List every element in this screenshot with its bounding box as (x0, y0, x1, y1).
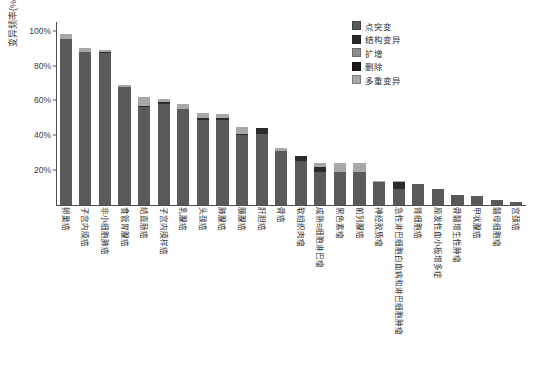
bar-column[interactable] (256, 128, 268, 205)
bar-column[interactable] (373, 181, 385, 205)
legend-item[interactable]: 点突变 (352, 20, 401, 31)
bar-column[interactable] (118, 85, 130, 205)
legend-label: 多重变异 (365, 74, 401, 86)
x-axis-tick-label: 神经胶质瘤 (375, 207, 383, 247)
x-axis-tick-label: 肝胆癌 (257, 207, 265, 231)
x-axis-tick-label: 成熟B细胞淋巴瘤 (316, 207, 324, 268)
x-axis-tick-label: 子宫内膜样癌 (159, 207, 167, 255)
x-axis-tick-label: 宫颈癌 (512, 207, 520, 231)
legend-swatch-icon (352, 35, 361, 44)
legend-item[interactable]: 扩增 (352, 47, 401, 58)
bar-segment (353, 163, 365, 172)
bar-segment (236, 135, 248, 205)
chart-legend: 点突变结构变异扩增删除多重变异 (352, 20, 401, 85)
x-axis-tick-label: 软组织肉瘤 (296, 207, 304, 247)
bar-column[interactable] (79, 48, 91, 205)
legend-label: 点突变 (365, 20, 392, 32)
legend-label: 结构变异 (365, 33, 401, 45)
legend-label: 删除 (365, 60, 383, 72)
x-axis-tick-label: 原发性血小板增多症 (433, 207, 441, 279)
bar-column[interactable] (491, 200, 503, 205)
bar-column[interactable] (510, 202, 522, 205)
legend-item[interactable]: 结构变异 (352, 34, 401, 45)
legend-swatch-icon (352, 48, 361, 57)
x-axis-tick-label: 肾细胞癌 (414, 207, 422, 239)
legend-swatch-icon (352, 75, 361, 84)
bar-segment (432, 189, 444, 205)
bar-segment (79, 52, 91, 205)
bar-segment (118, 87, 130, 206)
x-axis-tick-label: 结直肠癌 (140, 207, 148, 239)
x-axis-tick-label: 急性淋巴细胞白血病和淋巴细胞肿瘤 (394, 207, 402, 335)
bar-column[interactable] (216, 114, 228, 205)
bar-column[interactable] (177, 104, 189, 205)
bar-segment (60, 39, 72, 205)
bar-column[interactable] (295, 156, 307, 205)
bar-column[interactable] (236, 127, 248, 205)
y-axis-title: 变异频率(%) (6, 0, 19, 82)
x-axis-tick-label: 子宫内膜癌 (81, 207, 89, 247)
legend-item[interactable]: 删除 (352, 61, 401, 72)
bar-segment (510, 202, 522, 205)
x-axis-labels: 卵巢癌子宫内膜癌非小细胞肺癌食管胃腺癌结直肠癌子宫内膜样癌乳腺癌头颈癌肺腺癌胰腺… (56, 207, 526, 347)
bar-segment (373, 182, 385, 205)
x-axis-tick-label: 卵巢癌 (61, 207, 69, 231)
bar-segment (197, 120, 209, 205)
bar-segment (393, 189, 405, 205)
bar-segment (334, 163, 346, 172)
bar-segment (295, 161, 307, 205)
x-axis-tick-label: 非小细胞肺癌 (100, 207, 108, 255)
bar-column[interactable] (334, 163, 346, 205)
x-axis-tick-label: 黑色素瘤 (335, 207, 343, 239)
bar-segment (275, 151, 287, 205)
bar-column[interactable] (275, 148, 287, 206)
bar-column[interactable] (393, 181, 405, 205)
x-axis-tick-label: 胰腺癌 (237, 207, 245, 231)
bar-segment (256, 134, 268, 205)
plot-area: 20%40%60%80%100% (56, 22, 526, 205)
bar-segment (393, 182, 405, 189)
bar-segment (353, 172, 365, 205)
chart-figure: 变异频率(%) 20%40%60%80%100% 卵巢癌子宫内膜癌非小细胞肺癌食… (0, 0, 550, 375)
bar-segment (216, 120, 228, 205)
bar-segment (314, 172, 326, 205)
x-axis-tick-label: 乳腺癌 (179, 207, 187, 231)
bar-segment (177, 109, 189, 205)
x-axis-tick-label: 食管胃腺癌 (120, 207, 128, 247)
legend-label: 扩增 (365, 47, 383, 59)
bar-segment (334, 172, 346, 205)
bar-segment (138, 107, 150, 205)
bar-segment (99, 53, 111, 205)
bar-segment (491, 200, 503, 205)
legend-item[interactable]: 多重变异 (352, 74, 401, 85)
y-axis-tick-label: 100% (29, 26, 56, 36)
x-axis-tick-label: 肺腺癌 (218, 207, 226, 231)
legend-swatch-icon (352, 21, 361, 30)
bar-column[interactable] (353, 163, 365, 205)
bar-segment (158, 104, 170, 205)
bar-segment (471, 196, 483, 205)
bar-column[interactable] (60, 34, 72, 205)
bar-column[interactable] (197, 113, 209, 205)
bar-column[interactable] (432, 189, 444, 205)
bar-segment (138, 97, 150, 106)
bar-segment (412, 184, 424, 205)
bar-series-group (56, 22, 526, 205)
bar-column[interactable] (471, 196, 483, 205)
bar-segment (451, 195, 463, 205)
bar-column[interactable] (451, 195, 463, 205)
bar-column[interactable] (138, 97, 150, 205)
bar-column[interactable] (158, 99, 170, 205)
bar-column[interactable] (412, 184, 424, 205)
x-axis-tick-label: 头颈癌 (198, 207, 206, 231)
x-axis-line (56, 205, 526, 206)
bar-column[interactable] (314, 163, 326, 205)
bar-segment (236, 127, 248, 134)
x-axis-tick-label: 骨髓增生性肿瘤 (453, 207, 461, 263)
x-axis-tick-label: 前列腺癌 (355, 207, 363, 239)
legend-swatch-icon (352, 62, 361, 71)
x-axis-tick-label: 甲状腺癌 (472, 207, 480, 239)
x-axis-tick-label: 骨癌 (277, 207, 285, 223)
bar-column[interactable] (99, 50, 111, 205)
x-axis-tick-label: 髓母细胞瘤 (492, 207, 500, 247)
